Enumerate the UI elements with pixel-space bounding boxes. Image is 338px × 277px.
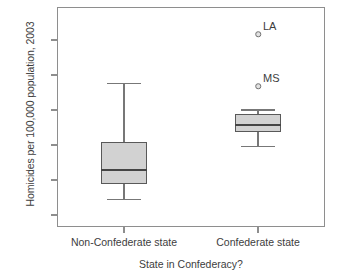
x-axis-title: State in Confederacy? <box>57 258 325 270</box>
x-axis-tick-mark <box>257 227 258 233</box>
outlier-point-la <box>255 32 261 38</box>
box-1 <box>101 142 147 184</box>
plot-frame <box>57 7 325 227</box>
y-axis-title: Homicides per 100,000 population, 2003 <box>24 0 36 229</box>
y-axis-tick-mark <box>51 214 57 215</box>
whisker-lower <box>257 132 258 146</box>
outlier-label-la: LA <box>263 20 276 32</box>
outlier-label-ms: MS <box>263 72 280 84</box>
whisker-cap-lower <box>107 199 142 200</box>
x-axis-tick-label: Non-Confederate state <box>71 236 177 248</box>
box-2 <box>235 114 281 132</box>
median-line-1 <box>101 169 147 171</box>
whisker-cap-upper <box>241 109 276 110</box>
y-axis-tick-mark <box>51 39 57 40</box>
y-axis-tick-mark <box>51 179 57 180</box>
boxplot-figure: Homicides per 100,000 population, 2003 0… <box>0 0 338 277</box>
y-axis-tick-mark <box>51 109 57 110</box>
whisker-upper <box>123 83 124 142</box>
whisker-lower <box>123 184 124 199</box>
outlier-point-ms <box>255 83 261 89</box>
whisker-cap-lower <box>241 146 276 147</box>
y-axis-tick-mark <box>51 74 57 75</box>
median-line-2 <box>235 124 281 126</box>
x-axis-tick-mark <box>123 227 124 233</box>
y-axis-tick-mark <box>51 144 57 145</box>
x-axis-tick-label: Confederate state <box>216 236 299 248</box>
whisker-cap-upper <box>107 83 142 84</box>
